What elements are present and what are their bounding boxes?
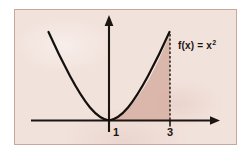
parabola-plot: 1 3 <box>15 10 238 146</box>
function-label-exponent: 2 <box>212 39 216 46</box>
x-tick-label-3: 3 <box>167 126 173 138</box>
function-label-prefix: f(x) = x <box>178 40 212 51</box>
plot-frame: 1 3 <box>14 9 237 145</box>
x-tick-label-1: 1 <box>113 126 119 138</box>
function-label: f(x) = x2 <box>178 40 216 51</box>
x-axis-arrow-icon <box>210 116 220 125</box>
shaded-area-region <box>109 35 170 121</box>
figure-root: 1 3 f(x) = x2 <box>0 0 251 156</box>
y-axis-arrow-icon <box>105 15 114 26</box>
